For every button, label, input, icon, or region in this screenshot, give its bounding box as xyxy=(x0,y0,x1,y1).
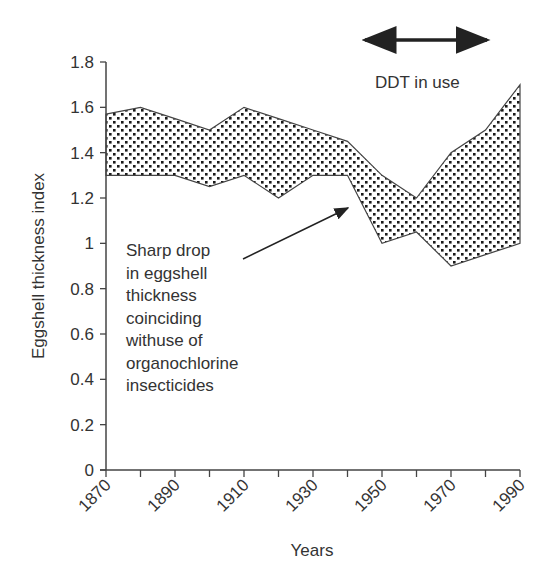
y-tick-label: 0 xyxy=(85,461,94,480)
y-tick-label: 1 xyxy=(85,234,94,253)
sharp-drop-note: Sharp dropin eggshellthicknesscoinciding… xyxy=(125,241,238,395)
x-tick-label: 1990 xyxy=(489,475,529,515)
x-tick-label: 1890 xyxy=(144,475,184,515)
y-tick-label: 0.2 xyxy=(70,416,94,435)
y-tick-label: 1.8 xyxy=(70,53,94,72)
sharp-drop-annotation: Sharp dropin eggshellthicknesscoinciding… xyxy=(125,208,348,395)
y-tick-label: 1.2 xyxy=(70,189,94,208)
eggshell-thickness-chart: 1870189019101930195019701990 00.20.40.60… xyxy=(0,0,548,587)
note-line: withuse of xyxy=(125,331,203,350)
x-axis-title: Years xyxy=(291,541,334,560)
y-tick-label: 1.4 xyxy=(70,144,94,163)
x-tick-label: 1910 xyxy=(213,475,253,515)
note-line: thickness xyxy=(126,286,197,305)
note-line: Sharp drop xyxy=(126,241,210,260)
ddt-in-use-annotation: DDT in use xyxy=(365,40,487,92)
note-line: organochlorine xyxy=(126,354,238,373)
y-tick-label: 0.6 xyxy=(70,325,94,344)
x-tick-label: 1930 xyxy=(282,475,322,515)
y-tick-label: 0.8 xyxy=(70,280,94,299)
note-line: coinciding xyxy=(126,309,202,328)
x-tick-label: 1950 xyxy=(351,475,391,515)
note-line: insecticides xyxy=(126,376,214,395)
x-axis-ticks: 1870189019101930195019701990 xyxy=(75,470,529,516)
x-tick-label: 1970 xyxy=(420,475,460,515)
ddt-label: DDT in use xyxy=(375,73,460,92)
note-line: in eggshell xyxy=(126,264,207,283)
y-axis-ticks: 00.20.40.60.811.21.41.61.8 xyxy=(70,53,106,480)
annotation-arrow-icon xyxy=(243,208,348,259)
range-band-area xyxy=(106,85,520,266)
thickness-range-band xyxy=(106,85,520,266)
y-axis-title: Eggshell thickness index xyxy=(29,172,48,359)
x-tick-label: 1870 xyxy=(75,475,115,515)
y-tick-label: 1.6 xyxy=(70,98,94,117)
y-tick-label: 0.4 xyxy=(70,370,94,389)
